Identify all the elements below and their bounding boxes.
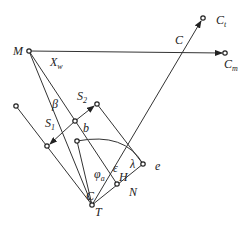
label-xw: Xw xyxy=(49,55,63,71)
point-m xyxy=(27,49,31,53)
line-m-to-cm xyxy=(29,51,222,53)
label-ct: Ct xyxy=(216,13,227,29)
label-beta: β xyxy=(51,97,58,111)
point-ct xyxy=(201,16,205,20)
label-phi-a: φa xyxy=(94,167,105,183)
point-cm xyxy=(223,51,227,55)
point-s1 xyxy=(45,144,49,148)
line-m-to-h xyxy=(29,51,117,184)
label-cm: Cm xyxy=(224,57,238,73)
label-epsilon: ε xyxy=(113,161,118,175)
label-n: N xyxy=(128,185,138,199)
diagram-canvas: M Xw C Ct Cm β S2 S1 b φa ε H λ e N C T xyxy=(0,0,252,231)
label-e: e xyxy=(155,159,161,173)
label-m: M xyxy=(12,44,24,58)
label-b: b xyxy=(83,121,89,135)
label-lambda: λ xyxy=(129,157,135,171)
point-s2 xyxy=(95,102,99,106)
label-t: T xyxy=(95,205,103,219)
label-s2: S2 xyxy=(77,89,87,105)
point-e xyxy=(141,162,145,166)
label-s1: S1 xyxy=(45,116,55,132)
label-c-bottom: C xyxy=(86,189,95,203)
point-b xyxy=(73,119,77,123)
label-c-top: C xyxy=(175,33,184,47)
point-t xyxy=(90,203,94,207)
line-t-to-ct xyxy=(92,21,201,205)
point-left-end xyxy=(14,104,18,108)
vector-s2 xyxy=(75,106,94,121)
label-h: H xyxy=(118,170,129,184)
point-arc-start xyxy=(75,139,79,143)
